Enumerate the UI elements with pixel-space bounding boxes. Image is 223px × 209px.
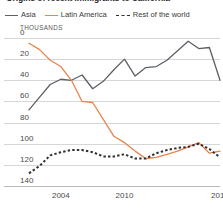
immigration-line-chart: Origins of recent immigrants to Californ… [0,0,223,209]
x-axis-tick-label: 2019 [211,192,223,200]
plot-area [0,0,223,209]
series-lines [29,41,220,173]
series-line-asia [29,41,220,110]
x-axis-tick-label: 2010 [116,192,134,200]
series-line-latin-america [29,43,220,158]
series-line-rest-of-the-world [29,144,220,174]
x-axis-tick-label: 2004 [52,192,70,200]
